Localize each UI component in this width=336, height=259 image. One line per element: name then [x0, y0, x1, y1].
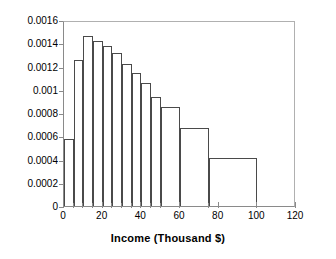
- x-axis-tick-label: 20: [82, 210, 122, 221]
- x-axis-title: Income (Thousand $): [0, 232, 336, 244]
- x-axis-tick-mark: [256, 202, 257, 208]
- x-axis-tick-mark: [102, 202, 103, 208]
- x-axis-minor-tick-mark: [160, 203, 161, 208]
- x-axis-tick-label: 120: [275, 210, 315, 221]
- x-axis-minor-tick-mark: [82, 203, 83, 208]
- x-axis-minor-tick-mark: [92, 203, 93, 208]
- x-axis-tick-mark: [179, 202, 180, 208]
- x-axis-minor-tick-mark: [208, 203, 209, 208]
- x-axis-tick-mark: [218, 202, 219, 208]
- x-axis-minor-tick-mark: [131, 203, 132, 208]
- x-axis-tick-mark: [140, 202, 141, 208]
- x-axis-minor-tick-mark: [121, 203, 122, 208]
- x-axis-tick-label: 0: [43, 210, 83, 221]
- x-axis-tick-mark: [63, 202, 64, 208]
- histogram-figure: 00.00020.00040.00060.00080.0010.00120.00…: [0, 0, 336, 259]
- x-axis: 020406080100120: [0, 0, 336, 259]
- x-axis-minor-tick-mark: [150, 203, 151, 208]
- x-axis-tick-label: 80: [198, 210, 238, 221]
- x-axis-tick-mark: [295, 202, 296, 208]
- x-axis-minor-tick-mark: [111, 203, 112, 208]
- x-axis-minor-tick-mark: [73, 203, 74, 208]
- x-axis-tick-label: 100: [236, 210, 276, 221]
- x-axis-tick-label: 40: [120, 210, 160, 221]
- x-axis-tick-label: 60: [159, 210, 199, 221]
